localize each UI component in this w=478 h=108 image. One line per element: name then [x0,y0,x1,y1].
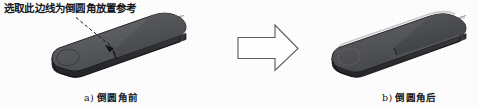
caption-a-index: a) [84,92,94,103]
part-after-fillet [332,12,466,77]
part-before-fillet [52,13,186,77]
right-arrow-outline-icon [238,25,298,71]
figure-stage: 选取此边线为倒圆角放置参考 a)倒圆角前 b)倒圆角后 [0,0,478,108]
annotation-label: 选取此边线为倒圆角放置参考 [4,2,137,15]
caption-b: b)倒圆角后 [382,90,437,104]
caption-b-index: b) [382,92,392,103]
transition-arrow [238,25,298,71]
fillet-comparison-figure: 选取此边线为倒圆角放置参考 a)倒圆角前 b)倒圆角后 [0,0,478,108]
caption-a: a)倒圆角前 [84,90,138,104]
caption-a-label: 倒圆角前 [97,92,138,103]
caption-b-label: 倒圆角后 [395,92,436,103]
